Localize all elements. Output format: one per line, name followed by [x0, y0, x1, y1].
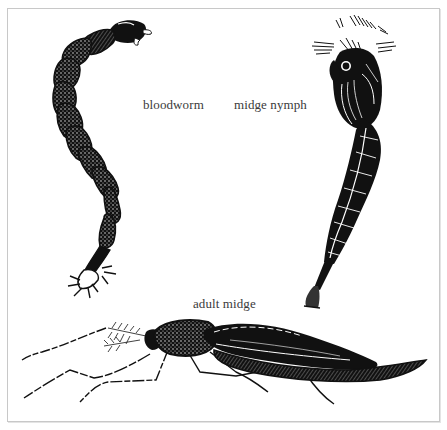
illustration	[0, 0, 447, 430]
label-bloodworm: bloodworm	[143, 97, 204, 113]
bloodworm-head	[109, 20, 151, 45]
nymph-abdomen	[324, 118, 381, 264]
nymph-illustration	[304, 15, 396, 308]
nymph-thorax	[330, 48, 383, 128]
adult-midge-illustration	[22, 320, 426, 404]
bloodworm-tail	[68, 246, 116, 298]
label-adult-midge: adult midge	[193, 296, 256, 312]
midge-antenna	[104, 322, 146, 352]
nymph-tail	[304, 258, 334, 308]
bloodworm-body	[53, 29, 120, 248]
label-midge-nymph: midge nymph	[234, 97, 307, 113]
bloodworm-illustration	[53, 20, 151, 298]
